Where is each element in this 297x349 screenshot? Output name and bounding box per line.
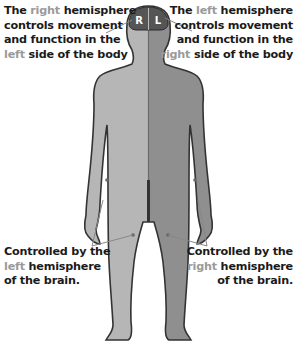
brain-right-hemisphere-label: R xyxy=(135,15,143,26)
hand-dot-right xyxy=(193,178,197,182)
hand-dot-left xyxy=(105,178,109,182)
highlight-right: right xyxy=(30,4,60,17)
highlight-left: left xyxy=(4,260,25,273)
highlight-right: right xyxy=(187,260,217,273)
highlight-left: left xyxy=(196,4,217,17)
top-right-caption: The left hemisphere controls movement an… xyxy=(161,4,293,62)
top-left-caption: The right hemisphere controls movement a… xyxy=(4,4,136,62)
highlight-left: left xyxy=(4,48,25,61)
bottom-right-caption: Controlled by the right hemisphere of th… xyxy=(187,245,293,289)
bottom-left-caption: Controlled by the left hemisphere of the… xyxy=(4,245,110,289)
highlight-right: right xyxy=(161,48,191,61)
